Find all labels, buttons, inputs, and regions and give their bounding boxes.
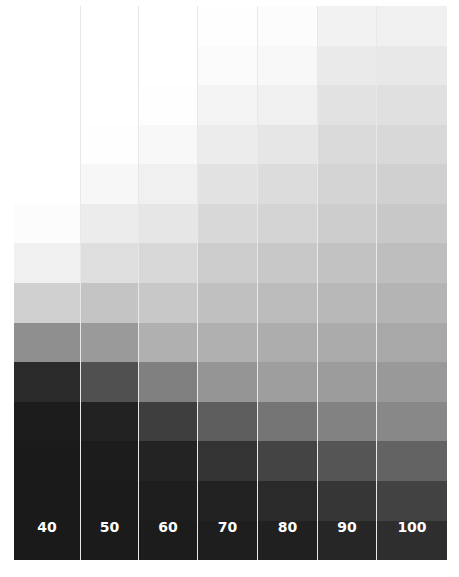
gray-cell <box>318 125 376 165</box>
gray-cell <box>81 243 138 283</box>
gray-cell <box>318 243 376 283</box>
gray-cell <box>14 85 80 125</box>
column-label: 40 <box>14 519 80 535</box>
gray-cell <box>14 481 80 521</box>
gray-cell <box>81 323 138 363</box>
gray-cell <box>14 6 80 46</box>
gray-cell <box>258 481 317 521</box>
gray-cell <box>139 204 197 244</box>
gray-cell <box>377 243 447 283</box>
gray-cell <box>258 85 317 125</box>
column-50: 50 <box>81 6 139 560</box>
gray-cell <box>14 441 80 481</box>
gray-cell <box>377 85 447 125</box>
gray-cell <box>198 481 257 521</box>
gray-cell <box>377 164 447 204</box>
column-label: 60 <box>139 519 197 535</box>
gray-cell <box>318 481 376 521</box>
gray-cell <box>318 362 376 402</box>
column-label: 50 <box>81 519 138 535</box>
column-label: 70 <box>198 519 257 535</box>
gray-cell <box>14 46 80 86</box>
column-label: 80 <box>258 519 317 535</box>
column-90: 90 <box>318 6 377 560</box>
gray-cell <box>81 362 138 402</box>
gray-cell <box>14 164 80 204</box>
gray-cell <box>14 323 80 363</box>
gray-cell <box>81 402 138 442</box>
gray-cell <box>198 323 257 363</box>
gray-cell <box>377 441 447 481</box>
gray-cell <box>14 283 80 323</box>
gray-cell <box>14 204 80 244</box>
gray-cell <box>258 323 317 363</box>
gray-cell <box>81 481 138 521</box>
gray-cell <box>258 441 317 481</box>
gray-cell <box>258 402 317 442</box>
gray-cell <box>14 362 80 402</box>
column-80: 80 <box>258 6 318 560</box>
gray-cell <box>139 164 197 204</box>
gray-cell <box>377 362 447 402</box>
gray-cell <box>139 441 197 481</box>
gray-cell <box>81 283 138 323</box>
gray-cell <box>139 402 197 442</box>
gray-cell <box>318 46 376 86</box>
gray-cell <box>198 164 257 204</box>
gray-cell <box>318 441 376 481</box>
gray-cell <box>139 85 197 125</box>
gray-cell <box>377 323 447 363</box>
gray-cell <box>377 46 447 86</box>
gray-cell <box>377 481 447 521</box>
gray-cell <box>258 125 317 165</box>
gray-cell <box>258 46 317 86</box>
gray-cell <box>318 85 376 125</box>
gray-cell <box>377 125 447 165</box>
gray-cell <box>198 243 257 283</box>
gray-cell <box>258 243 317 283</box>
gray-cell <box>81 125 138 165</box>
column-60: 60 <box>139 6 198 560</box>
gray-cell <box>198 402 257 442</box>
gray-cell <box>81 6 138 46</box>
gray-cell <box>81 164 138 204</box>
gray-cell <box>81 85 138 125</box>
gray-cell <box>318 6 376 46</box>
gray-cell <box>377 283 447 323</box>
gray-cell <box>198 46 257 86</box>
column-40: 40 <box>14 6 81 560</box>
column-70: 70 <box>198 6 258 560</box>
gray-cell <box>139 243 197 283</box>
gray-cell <box>318 402 376 442</box>
grayscale-step-chart: 405060708090100 <box>14 6 447 560</box>
gray-cell <box>198 125 257 165</box>
gray-cell <box>258 362 317 402</box>
gray-cell <box>258 283 317 323</box>
gray-cell <box>318 164 376 204</box>
gray-cell <box>198 283 257 323</box>
column-label: 90 <box>318 519 376 535</box>
gray-cell <box>139 362 197 402</box>
gray-cell <box>198 6 257 46</box>
gray-cell <box>14 125 80 165</box>
gray-cell <box>258 204 317 244</box>
gray-cell <box>198 204 257 244</box>
column-100: 100 <box>377 6 447 560</box>
gray-cell <box>198 362 257 402</box>
gray-cell <box>318 204 376 244</box>
gray-cell <box>377 6 447 46</box>
gray-cell <box>81 204 138 244</box>
gray-cell <box>258 164 317 204</box>
gray-cell <box>198 441 257 481</box>
gray-cell <box>318 323 376 363</box>
gray-cell <box>139 323 197 363</box>
gray-cell <box>14 402 80 442</box>
gray-cell <box>139 481 197 521</box>
gray-cell <box>318 283 376 323</box>
gray-cell <box>139 46 197 86</box>
gray-cell <box>258 6 317 46</box>
gray-cell <box>139 283 197 323</box>
gray-cell <box>14 243 80 283</box>
gray-cell <box>81 441 138 481</box>
gray-cell <box>198 85 257 125</box>
